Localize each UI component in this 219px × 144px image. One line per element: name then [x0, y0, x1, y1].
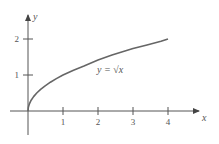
x-tick-label-4: 4: [166, 117, 171, 127]
curve-label: y = √x: [96, 64, 124, 75]
sqrt-chart: 1 2 3 4 1 2 x y y = √x: [0, 0, 219, 144]
y-tick-label-2: 2: [15, 34, 20, 44]
y-axis-label: y: [32, 11, 38, 22]
sqrt-curve: [28, 39, 168, 111]
x-tick-label-3: 3: [131, 117, 136, 127]
y-tick-label-1: 1: [15, 70, 20, 80]
x-axis-label: x: [201, 112, 207, 123]
x-tick-label-2: 2: [96, 117, 101, 127]
x-tick-label-1: 1: [61, 117, 66, 127]
